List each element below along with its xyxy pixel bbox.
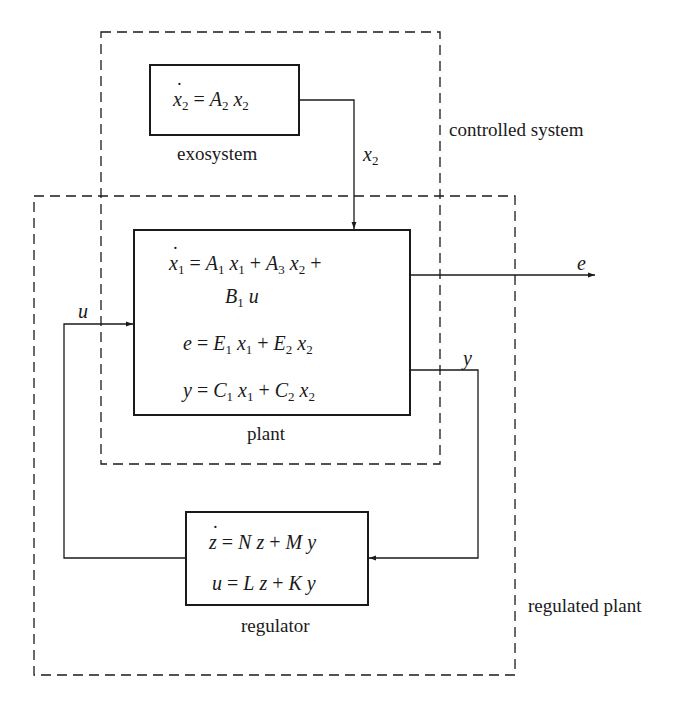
eq-var: x (363, 143, 372, 165)
eq-var: L (243, 572, 254, 594)
eq-var: y (183, 379, 192, 401)
eq-var: x (297, 332, 306, 354)
eq-var: u (212, 572, 222, 594)
eq-sub: 2 (306, 342, 313, 357)
eq-sign: + (253, 379, 274, 401)
eq-sign: = (222, 572, 243, 594)
eq-var: y (307, 572, 316, 594)
plant-equation-e: e = E1 x1 + E2 x2 (183, 333, 313, 356)
eq-var: x (173, 89, 182, 109)
eq-sign: + (264, 531, 285, 553)
eq-sub: 2 (372, 153, 379, 168)
eq-var: e (183, 332, 192, 354)
eq-sign: = (184, 252, 205, 274)
eq-var: C (275, 379, 288, 401)
eq-sign: + (245, 252, 266, 274)
plant-equation-x1-continued: B1 u (225, 286, 259, 309)
eq-var: x (290, 252, 299, 274)
eq-var: C (213, 379, 226, 401)
regulated-plant-label: regulated plant (528, 596, 641, 615)
eq-var: A (266, 252, 278, 274)
eq-var: x (237, 332, 246, 354)
eq-var: K (288, 572, 301, 594)
exosystem-caption: exosystem (177, 144, 257, 163)
x2-signal-label: x2 (363, 144, 378, 167)
regulator-equation-z: z = N z + M y (209, 532, 316, 552)
eq-var: E (274, 332, 286, 354)
eq-sub: 1 (218, 262, 225, 277)
eq-sign: = (217, 531, 238, 553)
eq-sub: 1 (227, 389, 234, 404)
eq-var: E (213, 332, 225, 354)
eq-var: M (286, 531, 303, 553)
eq-sub: 1 (225, 342, 232, 357)
eq-var: z (209, 532, 217, 552)
regulator-equation-u: u = L z + K y (212, 573, 316, 593)
u-signal-wire (64, 324, 186, 558)
controlled-system-label: controlled system (449, 120, 584, 139)
eq-sign: + (305, 252, 321, 274)
eq-var: B (225, 285, 237, 307)
plant-equation-x1: x1 = A1 x1 + A3 x2 + (169, 253, 321, 276)
y-signal-label: y (463, 348, 472, 368)
plant-caption: plant (247, 424, 285, 443)
eq-var: u (249, 285, 259, 307)
plant-equation-y: y = C1 x1 + C2 x2 (183, 380, 315, 403)
x2-signal-wire (299, 100, 354, 229)
eq-sign: + (267, 572, 288, 594)
eq-sub: 2 (286, 342, 293, 357)
eq-sign: + (252, 332, 273, 354)
eq-sign: = (192, 379, 213, 401)
eq-var: A (206, 252, 218, 274)
eq-var: N (238, 531, 251, 553)
eq-var: x (233, 88, 242, 110)
eq-var: A (210, 88, 222, 110)
eq-sub: 2 (308, 389, 315, 404)
eq-var: y (307, 531, 316, 553)
regulator-caption: regulator (241, 616, 310, 635)
u-signal-label: u (78, 301, 88, 321)
eq-var: x (169, 253, 178, 273)
eq-sign: = (188, 88, 209, 110)
eq-sub: 1 (237, 295, 244, 310)
eq-sub: 2 (288, 389, 295, 404)
eq-var: x (229, 252, 238, 274)
eq-sub: 3 (278, 262, 285, 277)
eq-sub: 2 (222, 98, 229, 113)
eq-sign: = (192, 332, 213, 354)
e-signal-label: e (577, 253, 586, 273)
eq-sub: 2 (242, 98, 249, 113)
exosystem-equation: x2 = A2 x2 (173, 89, 249, 112)
eq-var: x (238, 379, 247, 401)
